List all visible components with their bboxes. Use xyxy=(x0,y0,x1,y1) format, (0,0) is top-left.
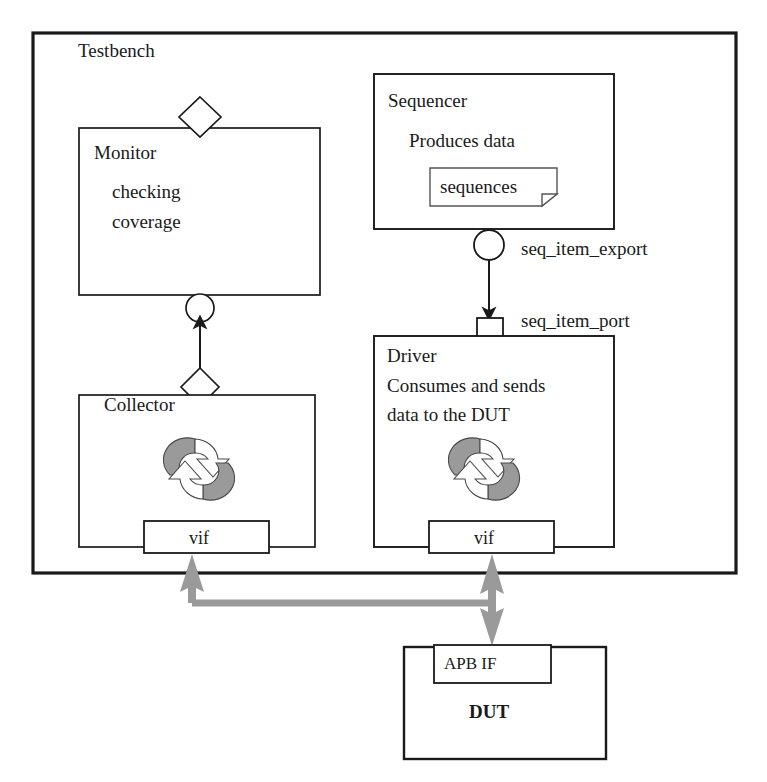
sequencer-title: Sequencer xyxy=(388,90,467,112)
collector-vif-label: vif xyxy=(189,528,209,549)
driver-box xyxy=(374,336,614,547)
dut-title: DUT xyxy=(469,701,509,723)
collector-title: Collector xyxy=(104,394,175,416)
driver-line-1: Consumes and sends xyxy=(387,375,545,397)
monitor-title: Monitor xyxy=(94,142,156,164)
monitor-line-checking: checking xyxy=(112,181,181,203)
testbench-label: Testbench xyxy=(78,40,155,62)
monitor-line-coverage: coverage xyxy=(112,211,181,233)
seq-item-export-circle-icon xyxy=(474,230,504,260)
monitor-analysis-export-circle-icon xyxy=(186,294,214,322)
dut-apb-if-label: APB IF xyxy=(444,654,496,674)
seq-item-port-label: seq_item_port xyxy=(521,310,630,332)
driver-line-2: data to the DUT xyxy=(387,404,510,426)
sequences-note-label: sequences xyxy=(440,176,517,198)
uvm-testbench-diagram: Testbench Monitor checking coverage Sequ… xyxy=(0,0,767,782)
seq-item-export-label: seq_item_export xyxy=(521,238,648,260)
driver-title: Driver xyxy=(387,345,437,367)
driver-vif-label: vif xyxy=(474,528,494,549)
sequencer-subtitle: Produces data xyxy=(409,130,515,152)
diagram-graphics xyxy=(0,0,767,782)
dut-apbif-down-arrow-icon xyxy=(480,600,504,646)
